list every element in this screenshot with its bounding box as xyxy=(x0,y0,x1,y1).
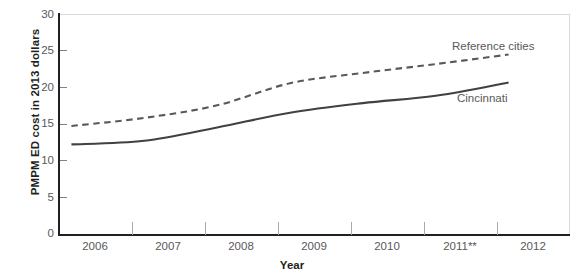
plot-frame-top xyxy=(60,14,570,15)
x-tick-label-2007: 2007 xyxy=(128,240,208,252)
y-tick-label-0: 0 xyxy=(8,228,54,239)
x-tick-label-2011: 2011** xyxy=(420,240,500,252)
y-tick-label-25: 25 xyxy=(8,45,54,56)
plot-frame-right xyxy=(569,14,570,235)
series-annotation-reference-cities: Reference cities xyxy=(452,40,534,52)
x-tick-label-2010: 2010 xyxy=(347,240,427,252)
x-tick-mark-6 xyxy=(497,222,498,235)
chart-figure: PMPM ED cost in 2013 dollars 30 25 20 15… xyxy=(0,0,584,279)
series-annotation-cincinnati: Cincinnati xyxy=(457,92,508,104)
y-tick-label-30: 30 xyxy=(8,9,54,20)
y-tick-label-5: 5 xyxy=(8,192,54,203)
y-tick-label-20: 20 xyxy=(8,82,54,93)
series-line-cincinnati xyxy=(71,83,508,145)
x-tick-label-2008: 2008 xyxy=(201,240,281,252)
y-tick-label-15: 15 xyxy=(8,118,54,129)
x-tick-mark-4 xyxy=(351,222,352,235)
series-line-reference-cities xyxy=(71,55,508,126)
y-axis-ticks: 30 25 20 15 10 5 0 xyxy=(0,0,54,279)
x-tick-mark-1 xyxy=(132,222,133,235)
x-tick-mark-2 xyxy=(205,222,206,235)
x-tick-label-2009: 2009 xyxy=(274,240,354,252)
x-axis-line xyxy=(58,234,570,236)
x-tick-label-2006: 2006 xyxy=(55,240,135,252)
y-axis-line xyxy=(58,13,60,236)
x-axis-title: Year xyxy=(0,259,584,271)
y-tick-label-10: 10 xyxy=(8,155,54,166)
x-tick-mark-3 xyxy=(278,222,279,235)
x-tick-label-2012: 2012 xyxy=(493,240,573,252)
x-tick-mark-5 xyxy=(424,222,425,235)
